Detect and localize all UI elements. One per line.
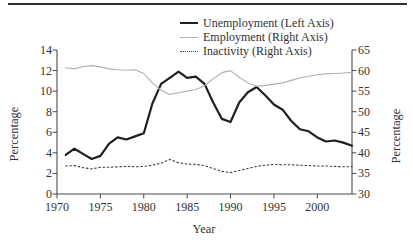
right-axis-tick-label: 50: [358, 106, 370, 118]
left-axis-tick-label: 2: [46, 167, 52, 179]
series-line-unemployment: [66, 72, 352, 159]
figure-labour-market-chart: Unemployment (Left Axis) Employment (Rig…: [0, 0, 413, 248]
x-axis-tick-label: 1980: [132, 201, 156, 213]
series-line-inactivity: [66, 159, 352, 172]
left-axis-tick-label: 6: [46, 126, 52, 138]
right-axis-tick-label: 55: [358, 85, 370, 97]
left-axis-tick-label: 10: [40, 85, 52, 97]
x-axis-tick-label: 2000: [305, 201, 329, 213]
right-axis-tick-label: 45: [358, 126, 370, 138]
left-axis-tick-label: 12: [40, 65, 52, 77]
x-axis-tick-label: 1970: [45, 201, 69, 213]
x-axis-tick-label: 1990: [219, 201, 243, 213]
right-axis-tick-label: 35: [358, 167, 370, 179]
left-axis-tick-label: 14: [40, 44, 52, 56]
left-axis-tick-label: 8: [46, 106, 52, 118]
series-line-employment: [66, 66, 352, 95]
x-axis-tick-label: 1995: [262, 201, 286, 213]
right-axis-tick-label: 65: [358, 44, 370, 56]
right-axis-tick-label: 30: [358, 188, 370, 200]
left-axis-tick-label: 0: [46, 188, 52, 200]
left-axis-tick-label: 4: [46, 147, 52, 159]
right-axis-tick-label: 40: [358, 147, 370, 159]
x-axis-tick-label: 1985: [175, 201, 199, 213]
x-axis-tick-label: 1975: [88, 201, 112, 213]
right-axis-tick-label: 60: [358, 65, 370, 77]
